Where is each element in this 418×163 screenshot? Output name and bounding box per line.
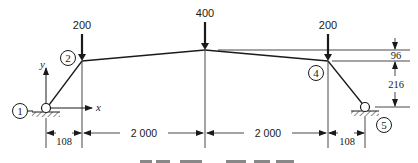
- down-arrow-icon: [324, 54, 332, 61]
- caption-cutoff: [140, 160, 294, 163]
- structure-diagram: y x 200 400 200 1 2 4 5 108: [0, 0, 418, 163]
- dimension-value: 2 000: [255, 127, 281, 139]
- member-4-5: [328, 61, 365, 107]
- horizontal-dimension-2: 2 000: [84, 127, 203, 139]
- y-axis-label: y: [39, 58, 45, 70]
- member-3-4: [205, 50, 328, 61]
- svg-text:2: 2: [65, 52, 71, 64]
- dimension-value: 2 000: [131, 127, 157, 139]
- svg-text:1: 1: [17, 105, 23, 117]
- load-value: 400: [196, 7, 214, 19]
- horizontal-dimension-3: 2 000: [207, 127, 326, 139]
- horizontal-dimension-1: 108: [47, 133, 81, 147]
- pin-support-node-1: [32, 104, 60, 118]
- node-label-1: 1: [13, 104, 34, 119]
- load-node-4: 200: [319, 19, 337, 61]
- load-value: 200: [73, 19, 91, 31]
- pin-icon: [361, 103, 370, 112]
- dimension-value: 216: [388, 79, 404, 90]
- vertical-dimension-216: 216: [388, 62, 404, 106]
- member-1-2: [46, 61, 82, 109]
- load-value: 200: [319, 19, 337, 31]
- vertical-dimension-96: 96: [391, 38, 402, 61]
- x-axis-label: x: [95, 101, 101, 113]
- pin-icon: [42, 104, 51, 113]
- node-label-4: 4: [309, 66, 324, 81]
- down-arrow-icon: [78, 54, 86, 61]
- svg-text:5: 5: [381, 119, 387, 131]
- node-label-5: 5: [377, 118, 392, 133]
- load-node-3: 400: [196, 7, 214, 50]
- dimension-value: 96: [391, 50, 402, 61]
- node-label-2: 2: [61, 51, 76, 66]
- down-arrow-icon: [201, 43, 209, 50]
- horizontal-dimension-4: 108: [329, 133, 364, 147]
- svg-text:4: 4: [313, 67, 319, 79]
- pin-support-node-5: [351, 103, 379, 117]
- member-2-3: [82, 50, 205, 61]
- dimension-value: 108: [339, 136, 355, 147]
- load-node-2: 200: [73, 19, 91, 61]
- dimension-value: 108: [56, 136, 72, 147]
